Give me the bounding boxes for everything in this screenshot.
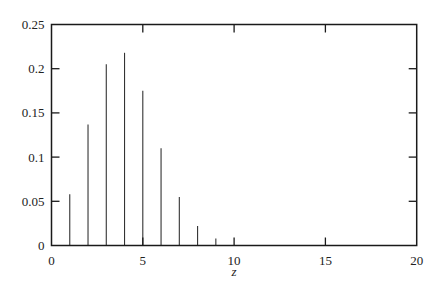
y-tick-label: 0.05	[22, 194, 45, 209]
y-tick-label: 0.1	[28, 150, 44, 165]
y-tick-label: 0.25	[22, 17, 45, 32]
x-tick-label: 20	[410, 253, 423, 268]
y-tick-label: 0.15	[22, 105, 45, 120]
y-tick-label: 0.2	[28, 61, 44, 76]
x-tick-label: 15	[319, 253, 332, 268]
x-tick-label: 5	[140, 253, 147, 268]
y-tick-label: 0	[38, 238, 45, 253]
x-tick-label: 0	[48, 253, 55, 268]
y-tick-labels: 00.050.10.150.20.25	[22, 17, 45, 253]
x-axis-title: z	[231, 264, 237, 279]
stem-series	[70, 53, 216, 246]
stem-chart: 05101520 00.050.10.150.20.25 z	[0, 0, 441, 295]
